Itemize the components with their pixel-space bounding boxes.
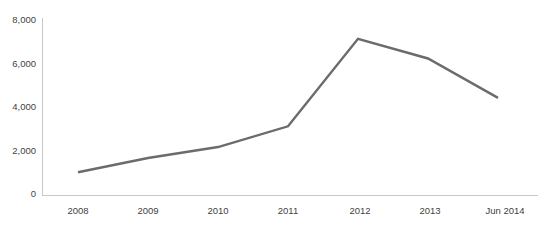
x-tick-label-2008: 2008	[67, 205, 88, 216]
x-tick-label-2010: 2010	[207, 205, 228, 216]
chart-canvas: 8,000 6,000 4,000 2,000 0 2008 2009 2010…	[0, 0, 544, 227]
x-tick-label-2011: 2011	[278, 205, 298, 216]
y-tick-label-4000: 4,000	[12, 101, 36, 112]
line-chart: 8,000 6,000 4,000 2,000 0 2008 2009 2010…	[0, 0, 544, 227]
x-tick-label-2009: 2009	[137, 205, 158, 216]
x-tick-label-2012: 2012	[349, 205, 370, 216]
x-tick-label-jun-2014: Jun 2014	[485, 205, 524, 216]
y-tick-label-2000: 2,000	[12, 145, 36, 156]
chart-background	[0, 0, 544, 227]
y-tick-label-6000: 6,000	[12, 58, 36, 69]
x-tick-label-2013: 2013	[419, 205, 440, 216]
y-tick-label-0: 0	[31, 188, 36, 199]
y-tick-label-8000: 8,000	[12, 14, 36, 25]
